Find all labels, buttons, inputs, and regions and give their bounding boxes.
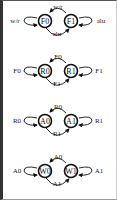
edge-label-top: w/r xyxy=(53,3,63,11)
self-loop-right xyxy=(79,117,92,125)
edge-label-right: F1 xyxy=(95,67,103,75)
state-label: W0 xyxy=(39,167,51,176)
state-label: R1 xyxy=(66,67,75,76)
edge-label-bottom: F1 xyxy=(53,80,61,88)
state-diagram: F0 F1 w/r alu w/r alu R0 R1 F0 F1 F0 F1 … xyxy=(0,0,117,200)
state-label: F1 xyxy=(67,17,75,26)
edge-label-left: R0 xyxy=(13,117,22,125)
self-loop-left xyxy=(24,167,37,175)
edge-label-bottom: alu xyxy=(53,30,62,38)
self-loop-right xyxy=(79,17,92,25)
edge-label-left: F0 xyxy=(13,67,21,75)
state-label: R0 xyxy=(40,67,49,76)
self-loop-right xyxy=(79,67,92,75)
fsm-4: W0 W1 A0 A1 A0 A1 xyxy=(13,153,104,188)
state-label: A0 xyxy=(40,117,50,126)
edge-label-bottom: A1 xyxy=(53,180,62,188)
state-label: W1 xyxy=(65,167,77,176)
edge-label-right: alu xyxy=(97,17,106,25)
edge-label-top: F0 xyxy=(54,53,62,61)
fsm-3: A0 A1 R0 R1 R0 R1 xyxy=(13,103,104,138)
edge-label-bottom: R1 xyxy=(53,130,62,138)
self-loop-left xyxy=(24,17,37,25)
edge-label-top: A0 xyxy=(54,153,63,161)
state-label: A1 xyxy=(66,117,76,126)
self-loop-left xyxy=(24,67,37,75)
edge-label-right: A1 xyxy=(95,167,104,175)
edge-label-left: w/r xyxy=(10,17,20,25)
self-loop-right xyxy=(79,167,92,175)
edge-label-left: A0 xyxy=(13,167,22,175)
fsm-2: R0 R1 F0 F1 F0 F1 xyxy=(13,53,103,88)
edge-label-top: R0 xyxy=(54,103,63,111)
state-label: F0 xyxy=(41,17,49,26)
self-loop-left xyxy=(24,117,37,125)
edge-label-right: R1 xyxy=(95,117,104,125)
fsm-1: F0 F1 w/r alu w/r alu xyxy=(10,3,105,38)
